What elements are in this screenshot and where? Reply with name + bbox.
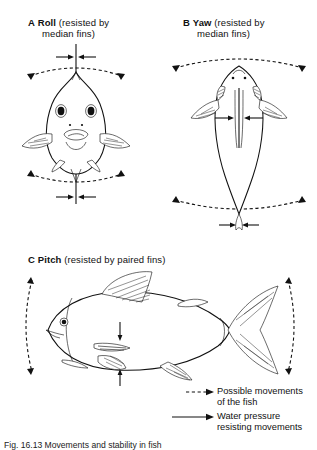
pitch-motion-arc-left <box>26 277 34 375</box>
panel-c-heading: C Pitch (resisted by paired fins) <box>28 255 165 266</box>
panel-a-qualifier: (resisted by <box>59 17 109 28</box>
panel-a-qualifier2: median fins) <box>42 29 95 40</box>
legend-possible-line1: Possible movements <box>217 386 303 397</box>
legend-possible-line2: of the fish <box>217 397 303 408</box>
panel-a-heading: A Roll (resisted by median fins) <box>28 18 109 39</box>
legend-solid-arrow-icon <box>172 414 214 420</box>
panel-c-term: Pitch <box>38 254 62 265</box>
legend-dashed-arrow-icon <box>186 389 214 395</box>
panel-b-yaw-illustration <box>163 42 315 232</box>
panel-a-letter: A <box>28 17 35 28</box>
figure-caption: Fig. 16.13 Movements and stability in fi… <box>4 440 162 450</box>
panel-b-qualifier: (resisted by <box>214 17 264 28</box>
pitch-motion-arc-right <box>285 277 294 375</box>
panel-c-letter: C <box>28 254 35 265</box>
panel-b-qualifier2: median fins) <box>197 29 250 40</box>
panel-c-qualifier: (resisted by paired fins) <box>64 254 165 265</box>
fish-dorsal-view <box>191 66 287 230</box>
legend-pressure-line2: resisting movements <box>217 422 302 433</box>
panel-b-heading: B Yaw (resisted by median fins) <box>183 18 265 39</box>
legend-item-water-pressure: Water pressure resisting movements <box>217 411 302 433</box>
panel-a-term: Roll <box>38 17 56 28</box>
pitch-pressure-arrow-lower <box>118 369 123 386</box>
legend-pressure-line1: Water pressure <box>217 411 302 422</box>
panel-b-term: Yaw <box>193 17 212 28</box>
panel-a-roll-illustration <box>8 42 158 217</box>
figure-legend <box>168 386 218 426</box>
legend-item-possible-movements: Possible movements of the fish <box>217 386 303 408</box>
panel-c-pitch-illustration <box>10 268 310 383</box>
fish-anterior-view <box>22 72 130 182</box>
fish-lateral-view <box>46 272 278 380</box>
panel-b-letter: B <box>183 17 190 28</box>
